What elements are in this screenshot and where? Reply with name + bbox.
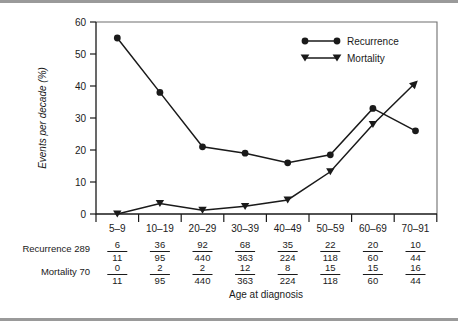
fraction-numerator: 0 <box>115 262 120 273</box>
fraction-denominator: 44 <box>410 275 421 286</box>
y-axis-title: Events per decade (%) <box>37 67 48 169</box>
fraction-cell: 2440 <box>193 262 213 286</box>
fraction-denominator: 95 <box>155 275 166 286</box>
legend-item-recurrence: Recurrence <box>302 36 400 47</box>
circle-marker-icon <box>242 150 249 157</box>
fraction-cell: 92440 <box>193 239 213 263</box>
fraction-numerator: 8 <box>285 262 290 273</box>
fraction-numerator: 22 <box>325 239 336 250</box>
fraction-cell: 611 <box>107 239 127 263</box>
fraction-cell: 1644 <box>406 262 426 286</box>
line-chart: 0 10 20 30 40 50 60 Events per decade (%… <box>0 0 458 321</box>
x-tick-label: 5–9 <box>109 223 126 234</box>
fraction-denominator: 118 <box>323 275 338 286</box>
fraction-numerator: 15 <box>325 262 336 273</box>
y-tick-label: 40 <box>75 81 87 92</box>
x-tick-label: 20–29 <box>189 223 217 234</box>
fraction-cell: 15118 <box>320 262 340 286</box>
fraction-denominator: 363 <box>237 275 253 286</box>
fraction-cell: 3695 <box>150 239 170 263</box>
legend-label-mortality: Mortality <box>347 53 385 64</box>
fraction-denominator: 11 <box>112 275 122 286</box>
y-tick-label: 60 <box>75 17 87 28</box>
fraction-cell: 8224 <box>278 262 298 286</box>
x-axis-title: Age at diagnosis <box>229 289 303 300</box>
series-mortality <box>113 78 421 218</box>
fraction-numerator: 10 <box>410 239 421 250</box>
x-axis-ticks <box>96 214 437 222</box>
circle-marker-icon <box>199 143 206 150</box>
fraction-cell: 011 <box>107 262 127 286</box>
y-axis-tick-labels: 0 10 20 30 40 50 60 <box>75 17 87 220</box>
fraction-numerator: 35 <box>282 239 293 250</box>
fraction-numerator: 6 <box>115 239 120 250</box>
fraction-cell: 22118 <box>320 239 340 263</box>
fraction-numerator: 15 <box>368 262 379 273</box>
fraction-denominator: 440 <box>195 275 211 286</box>
legend-item-mortality: Mortality <box>301 53 385 64</box>
y-tick-label: 10 <box>75 177 87 188</box>
fraction-denominator: 224 <box>280 275 296 286</box>
fraction-numerator: 2 <box>200 262 205 273</box>
fraction-cell: 295 <box>150 262 170 286</box>
fraction-cell: 12363 <box>235 262 255 286</box>
annotation-row-label-mortality: Mortality 70 <box>41 266 90 277</box>
circle-marker-icon <box>284 159 291 166</box>
annotation-row-label-recurrence: Recurrence 289 <box>22 243 90 254</box>
y-axis-ticks <box>90 22 96 214</box>
legend-label-recurrence: Recurrence <box>347 36 399 47</box>
fraction-numerator: 20 <box>368 239 379 250</box>
fraction-cell: 1560 <box>363 262 383 286</box>
circle-marker-icon <box>370 105 377 112</box>
x-tick-label: 50–59 <box>316 223 344 234</box>
fraction-numerator: 2 <box>157 262 162 273</box>
fraction-numerator: 36 <box>155 239 166 250</box>
fraction-numerator: 16 <box>410 262 421 273</box>
fraction-numerator: 12 <box>240 262 251 273</box>
x-tick-label: 60–69 <box>359 223 387 234</box>
circle-marker-icon <box>334 38 341 45</box>
circle-marker-icon <box>302 38 309 45</box>
fraction-cell: 35224 <box>278 239 298 263</box>
fraction-cell: 68363 <box>235 239 255 263</box>
series-line <box>117 83 415 214</box>
fraction-cell: 2060 <box>363 239 383 263</box>
circle-marker-icon <box>412 127 419 134</box>
x-tick-label: 70–91 <box>402 223 430 234</box>
fraction-numerator: 68 <box>240 239 251 250</box>
circle-marker-icon <box>327 151 334 158</box>
x-axis-tick-labels: 5–9 10–19 20–29 30–39 40–49 50–59 60–69 … <box>109 223 430 234</box>
fraction-denominator: 60 <box>368 275 379 286</box>
fraction-numerator: 92 <box>197 239 208 250</box>
y-tick-label: 20 <box>75 145 87 156</box>
y-tick-label: 0 <box>80 209 86 220</box>
y-tick-label: 50 <box>75 49 87 60</box>
x-tick-label: 10–19 <box>146 223 174 234</box>
annotation-table: Recurrence 289 Mortality 70 611369592440… <box>22 239 425 286</box>
circle-marker-icon <box>157 89 164 96</box>
x-tick-label: 30–39 <box>231 223 259 234</box>
x-tick-label: 40–49 <box>274 223 302 234</box>
fraction-cell: 1044 <box>406 239 426 263</box>
fraction-cells: 6113695924406836335224221182060104401129… <box>107 239 425 286</box>
plot-frame <box>96 22 437 214</box>
circle-marker-icon <box>114 35 121 42</box>
legend: Recurrence Mortality <box>301 36 400 64</box>
figure-container: 0 10 20 30 40 50 60 Events per decade (%… <box>0 0 458 321</box>
y-tick-label: 30 <box>75 113 87 124</box>
